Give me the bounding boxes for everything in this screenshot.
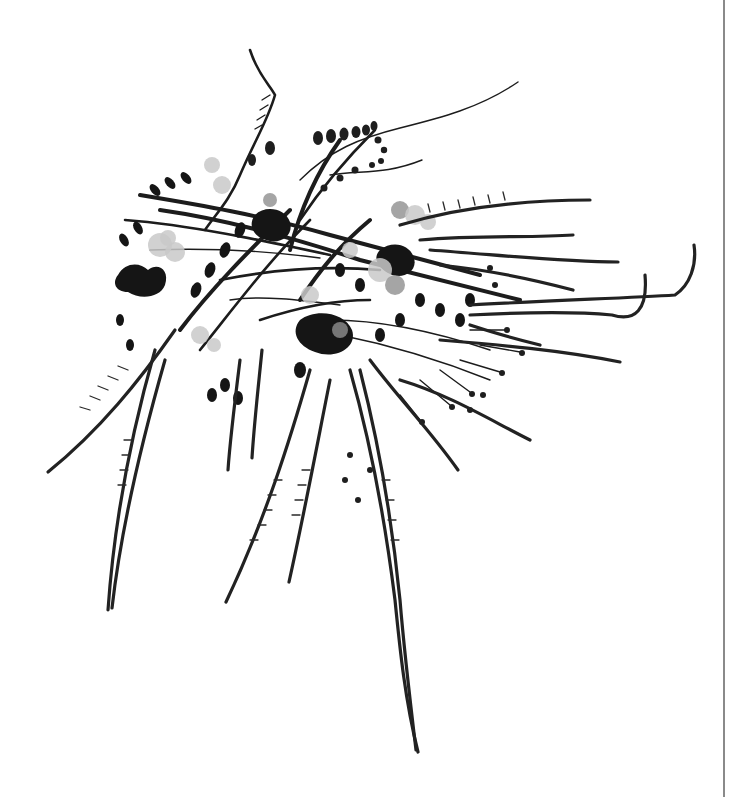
upper-stems bbox=[205, 50, 518, 250]
vertical-divider-line bbox=[723, 0, 725, 797]
plant-illustration bbox=[0, 0, 746, 797]
trailing-seed-pods-down bbox=[48, 330, 458, 752]
photo-canvas bbox=[0, 0, 746, 797]
leaf-clusters bbox=[115, 170, 475, 405]
trailing-seed-pods-right bbox=[400, 192, 695, 440]
buds-upper bbox=[248, 121, 387, 192]
